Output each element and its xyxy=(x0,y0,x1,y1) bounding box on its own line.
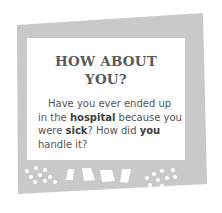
keyword-hospital: hospital xyxy=(70,112,115,123)
card-body: Have you ever ended up in the hospital b… xyxy=(38,97,178,151)
text-segment: were xyxy=(38,125,66,136)
text-segment: ? How did xyxy=(88,125,140,136)
body-line-2: in the hospital because you xyxy=(38,111,178,125)
title-line-2: YOU? xyxy=(27,70,185,88)
text-segment: in the xyxy=(38,112,70,123)
card-title: HOW ABOUT YOU? xyxy=(27,52,185,88)
body-line-3: were sick? How did you xyxy=(38,124,178,138)
keyword-you: you xyxy=(140,125,161,136)
text-segment: because you xyxy=(115,112,182,123)
title-line-1: HOW ABOUT xyxy=(27,52,185,70)
body-line-1: Have you ever ended up xyxy=(38,97,178,111)
keyword-sick: sick xyxy=(66,125,88,136)
body-line-4: handle it? xyxy=(38,138,178,152)
